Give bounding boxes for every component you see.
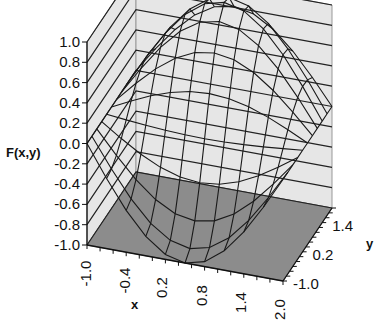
z-tick-label: 0.0: [40, 135, 80, 152]
z-axis-title: F(x,y): [6, 145, 41, 160]
z-tick-label: -0.4: [40, 175, 80, 192]
z-tick-label: -0.6: [40, 195, 80, 212]
z-tick-label: 0.2: [40, 114, 80, 131]
y-tick-label: -1.0: [293, 275, 319, 292]
x-tick-label: -1.0: [77, 261, 94, 287]
y-tick-label: 1.4: [332, 217, 353, 234]
z-tick-label: -0.8: [40, 216, 80, 233]
x-tick-label: 0.8: [193, 285, 210, 306]
z-tick-label: 0.6: [40, 74, 80, 91]
y-tick-label: 0.2: [313, 246, 334, 263]
z-tick-label: -0.2: [40, 155, 80, 172]
x-axis-title: x: [131, 297, 138, 312]
x-tick-label: 0.2: [153, 277, 170, 298]
x-tick-label: 2.0: [271, 299, 288, 320]
y-axis-title: y: [366, 236, 373, 251]
z-tick-label: 1.0: [40, 33, 80, 50]
z-tick-label: -1.0: [40, 236, 80, 253]
x-tick-label: 1.4: [232, 292, 249, 313]
z-tick-label: 0.4: [40, 94, 80, 111]
x-tick-label: -0.4: [117, 268, 134, 294]
z-tick-label: 0.8: [40, 53, 80, 70]
